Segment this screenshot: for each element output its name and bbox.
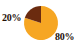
pie-label-minor: 20% xyxy=(2,12,21,23)
pie-label-major: 80% xyxy=(55,31,74,42)
pie-chart: 20% 80% xyxy=(0,0,81,49)
